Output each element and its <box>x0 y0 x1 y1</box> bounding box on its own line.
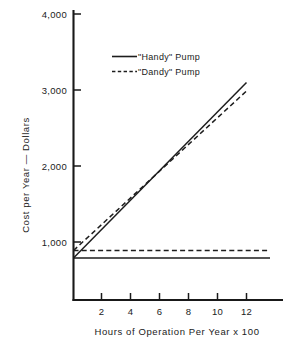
y-tick-label-1000: 1,000 <box>42 237 67 248</box>
legend-label-handy: "Handy" Pump <box>138 52 200 62</box>
y-axis-tick-labels: 4,000 3,000 2,000 1,000 <box>42 9 67 248</box>
x-tick-label-12: 12 <box>241 306 252 317</box>
x-tick-label-4: 4 <box>128 306 134 317</box>
legend-entry-dandy: "Dandy" Pump <box>112 67 200 77</box>
chart-figure: 4,000 3,000 2,000 1,000 2 4 6 8 10 12 Ho… <box>0 0 291 345</box>
y-axis-title: Cost per Year — Dollars <box>20 117 31 233</box>
y-axis-ticks <box>74 14 82 242</box>
x-axis-title: Hours of Operation Per Year x 100 <box>94 326 259 337</box>
y-tick-label-3000: 3,000 <box>42 85 67 96</box>
legend-label-dandy: "Dandy" Pump <box>138 67 200 77</box>
series-dandy-pump <box>74 91 271 251</box>
x-tick-label-8: 8 <box>186 306 192 317</box>
x-axis-tick-labels: 2 4 6 8 10 12 <box>99 306 252 317</box>
chart-legend: "Handy" Pump "Dandy" Pump <box>112 52 200 77</box>
dandy-sloped-line <box>74 91 247 251</box>
x-tick-label-10: 10 <box>212 306 223 317</box>
x-tick-label-2: 2 <box>99 306 105 317</box>
series-handy-pump <box>74 83 271 259</box>
y-tick-label-2000: 2,000 <box>42 161 67 172</box>
y-tick-label-4000: 4,000 <box>42 9 67 20</box>
line-chart-svg: 4,000 3,000 2,000 1,000 2 4 6 8 10 12 Ho… <box>0 0 291 345</box>
legend-entry-handy: "Handy" Pump <box>112 52 200 62</box>
x-tick-label-6: 6 <box>157 306 163 317</box>
